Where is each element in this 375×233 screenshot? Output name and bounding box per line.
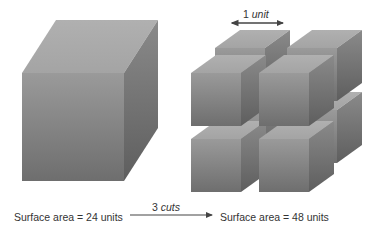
small-cube-front-bottom-right (259, 121, 334, 192)
cuts-label-number: 3 (152, 201, 158, 213)
cuts-label-word: cuts (161, 201, 180, 213)
small-cube-front-top-left (191, 55, 266, 126)
cuts-label: 3 cuts (152, 201, 180, 213)
cube-front-face (22, 73, 124, 181)
large-cube (22, 20, 158, 181)
cube-front-face (259, 139, 309, 192)
unit-label: 1 unit (243, 8, 269, 20)
right-surface-area-label: Surface area = 48 units (220, 211, 329, 223)
large-cube-shape (22, 20, 158, 181)
small-cube-front-top-right (259, 55, 334, 126)
cube-front-face (191, 139, 241, 192)
unit-label-word: unit (252, 8, 269, 20)
cube-front-face (191, 73, 241, 126)
left-surface-area-label: Surface area = 24 units (14, 211, 123, 223)
unit-label-number: 1 (243, 8, 249, 20)
small-cube-front-bottom-left (191, 121, 266, 192)
small-cubes-group (191, 30, 362, 192)
cube-diagram (0, 0, 375, 233)
cube-front-face (259, 73, 309, 126)
